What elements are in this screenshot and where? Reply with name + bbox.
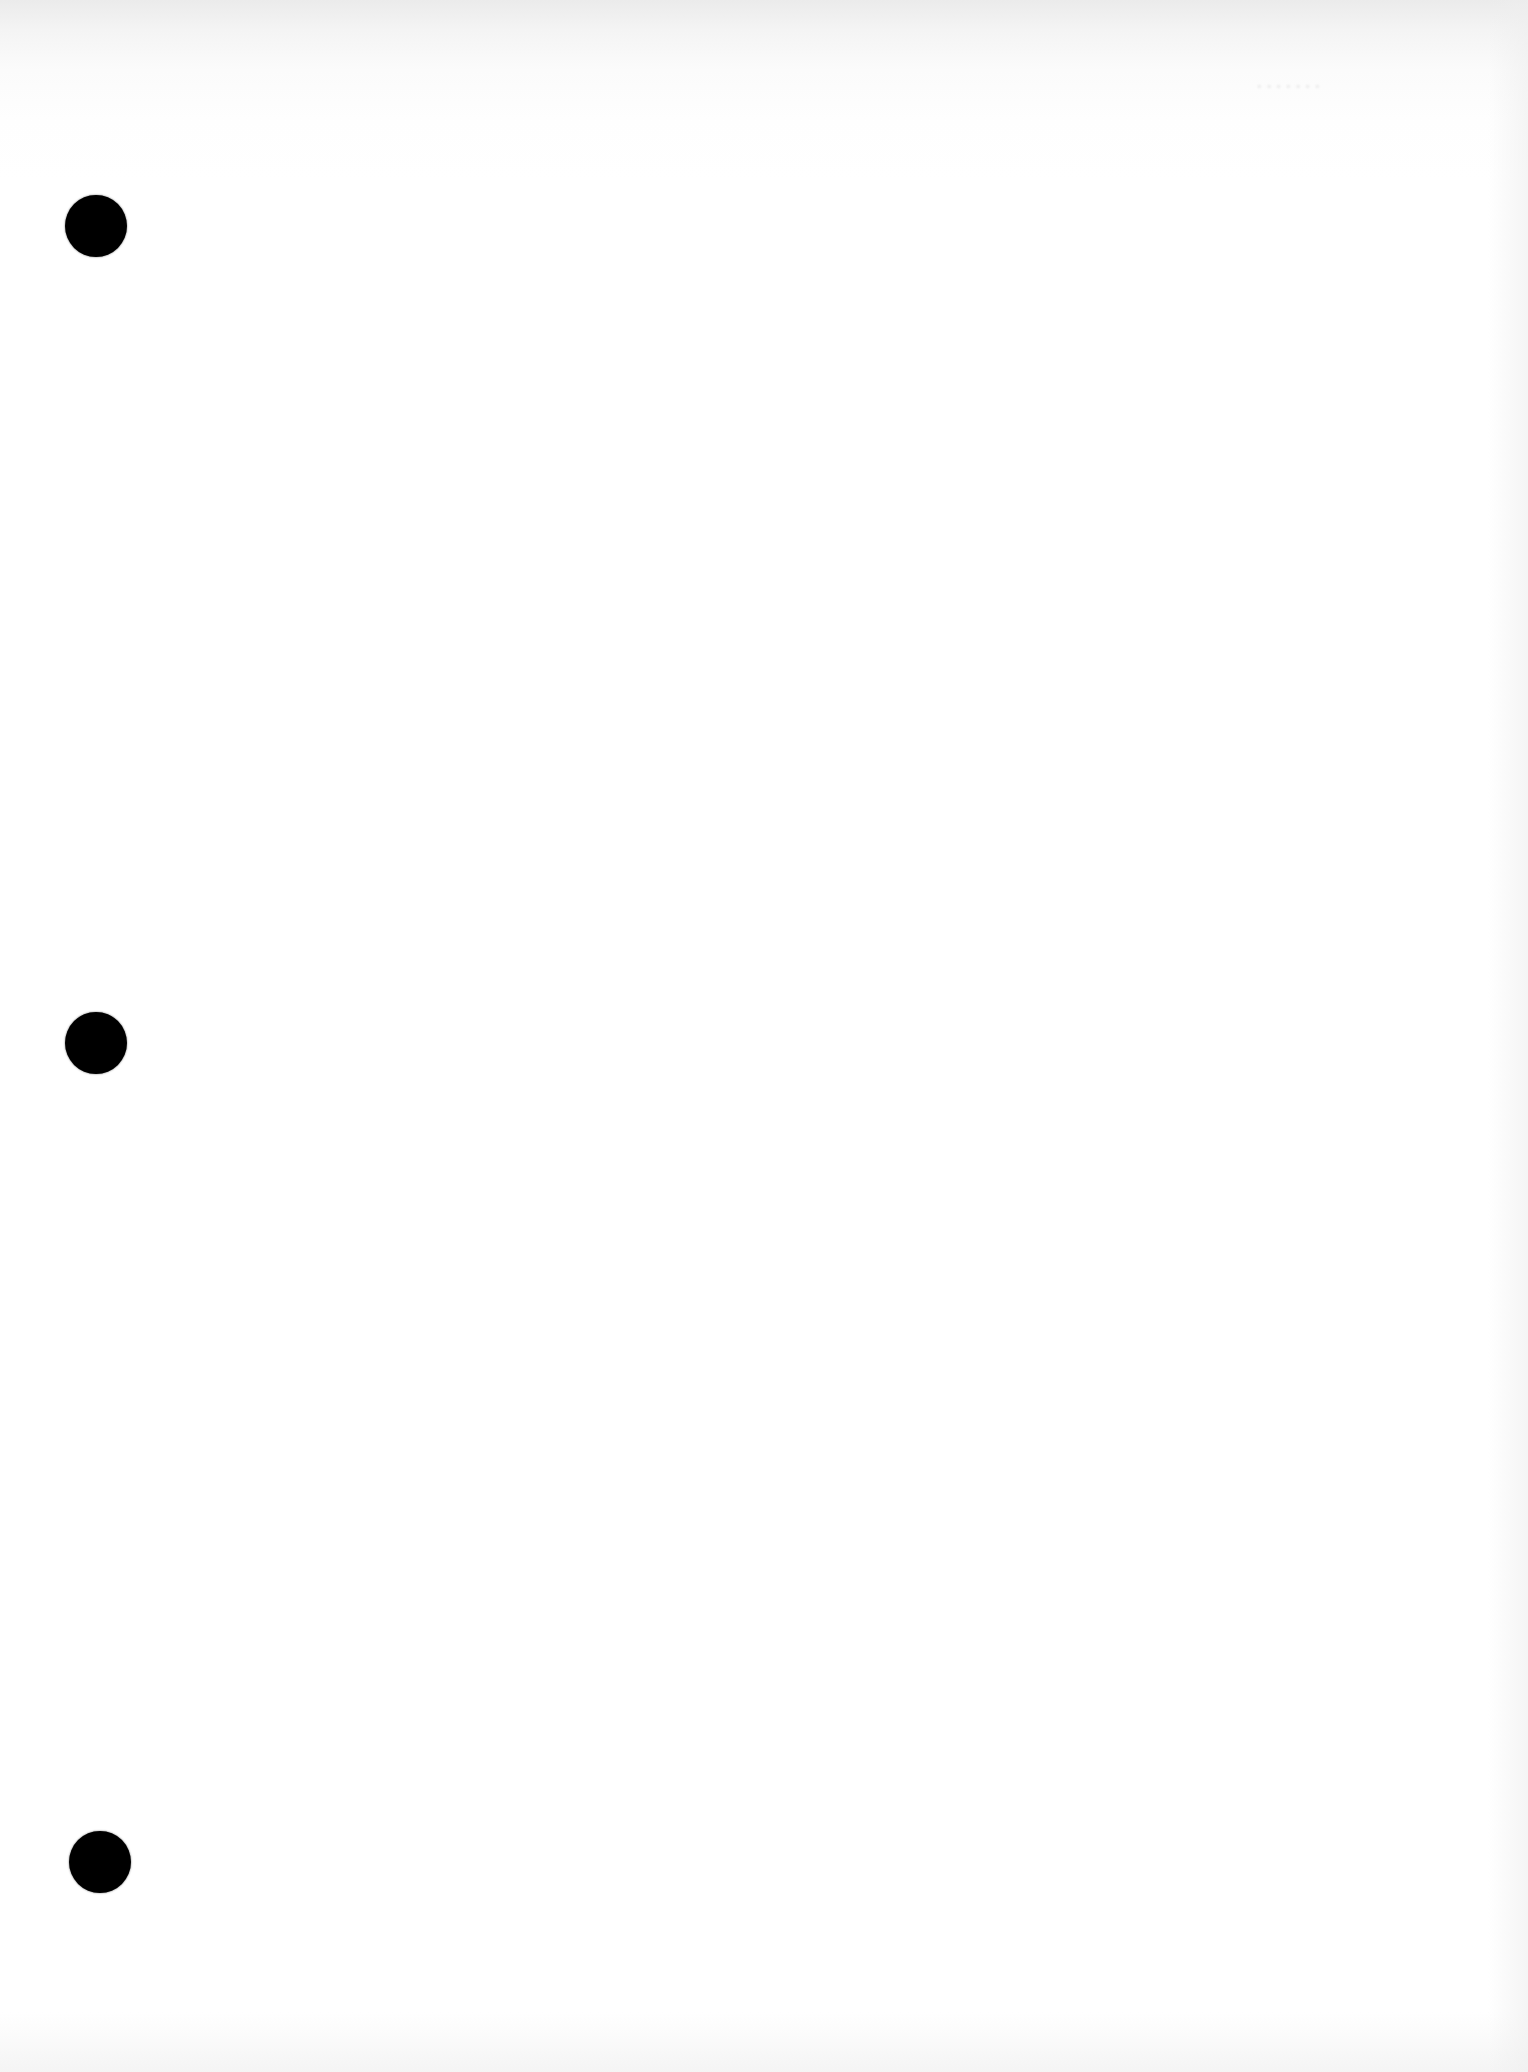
punch-hole-bottom [69, 1831, 131, 1893]
punch-hole-top [65, 195, 127, 257]
blank-document-page: ······· [0, 0, 1528, 2072]
bleed-through-text: ······· [1255, 72, 1323, 102]
punch-hole-middle [65, 1012, 127, 1074]
